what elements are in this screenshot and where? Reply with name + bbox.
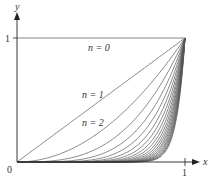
curve-n1: [17, 38, 185, 162]
y-axis-arrow-icon: [14, 12, 20, 20]
annotation-n2: n = 2: [82, 117, 104, 128]
y-tick-label-1: 1: [5, 33, 10, 44]
x-axis-arrow-icon: [192, 159, 200, 165]
curve-family: [17, 38, 185, 162]
power-function-chart: x y 0 1 1 n = 0 n = 1 n = 2: [0, 0, 216, 185]
annotation-n1: n = 1: [82, 89, 104, 100]
origin-label: 0: [7, 164, 12, 175]
annotation-n0: n = 0: [88, 42, 110, 53]
x-axis-label: x: [202, 156, 208, 167]
y-axis-label: y: [14, 1, 20, 12]
x-tick-label-1: 1: [182, 167, 187, 178]
